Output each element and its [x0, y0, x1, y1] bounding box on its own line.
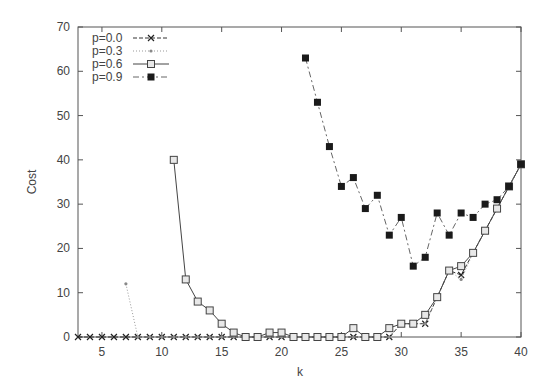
x-tick-label: 30 [395, 345, 409, 359]
open-square-marker-icon [170, 156, 177, 163]
legend-label: p=0.9 [92, 70, 123, 84]
x-tick-label: 20 [275, 345, 289, 359]
y-tick-label: 40 [57, 153, 71, 167]
open-square-marker-icon [386, 325, 393, 332]
filled-square-marker-icon [338, 183, 345, 190]
series-p-0-3 [124, 163, 522, 339]
cost-vs-k-chart: 510152025303540010203040506070 p=0.0p=0.… [0, 0, 556, 389]
star-marker-icon [352, 335, 355, 338]
y-tick-label: 0 [63, 330, 70, 344]
open-square-marker-icon [398, 320, 405, 327]
filled-square-marker-icon [148, 74, 155, 81]
open-square-marker-icon [410, 320, 417, 327]
filled-square-marker-icon [374, 192, 381, 199]
legend-item: p=0.6 [92, 57, 169, 71]
filled-square-marker-icon [398, 214, 405, 221]
series-line [174, 160, 521, 337]
series-line [78, 164, 521, 337]
filled-square-marker-icon [302, 55, 309, 62]
open-square-marker-icon [458, 263, 465, 270]
open-square-marker-icon [434, 294, 441, 301]
filled-square-marker-icon [506, 183, 513, 190]
series-line [126, 164, 521, 337]
data-series [75, 55, 525, 341]
series-p-0-0 [75, 161, 524, 340]
legend-item: p=0.9 [92, 70, 169, 84]
legend-item: p=0.0 [92, 31, 169, 45]
series-p-0-6 [170, 156, 524, 340]
open-square-marker-icon [482, 227, 489, 234]
star-marker-icon [148, 335, 151, 338]
series-line [305, 58, 521, 266]
open-square-marker-icon [362, 334, 369, 341]
open-square-marker-icon [254, 334, 261, 341]
plot-axes [78, 27, 521, 337]
x-tick-label: 5 [99, 345, 106, 359]
x-tick-label: 40 [514, 345, 528, 359]
star-marker-icon [172, 335, 175, 338]
star-marker-icon [388, 335, 391, 338]
x-marker-icon [458, 272, 464, 278]
star-marker-icon [220, 335, 223, 338]
filled-square-marker-icon [482, 201, 489, 208]
star-marker-icon [160, 335, 163, 338]
legend-item: p=0.3 [92, 44, 169, 58]
star-marker-icon [424, 322, 427, 325]
y-tick-label: 50 [57, 109, 71, 123]
open-square-marker-icon [470, 249, 477, 256]
star-marker-icon [184, 335, 187, 338]
y-axis-label: Cost [25, 169, 39, 194]
legend-label: p=0.6 [92, 57, 123, 71]
open-square-marker-icon [350, 325, 357, 332]
open-square-marker-icon [148, 61, 155, 68]
x-tick-label: 15 [215, 345, 229, 359]
open-square-marker-icon [338, 334, 345, 341]
x-tick-label: 35 [454, 345, 468, 359]
star-marker-icon [149, 49, 152, 52]
filled-square-marker-icon [386, 232, 393, 239]
open-square-marker-icon [218, 320, 225, 327]
y-tick-label: 30 [57, 197, 71, 211]
star-marker-icon [208, 335, 211, 338]
open-square-marker-icon [278, 329, 285, 336]
filled-square-marker-icon [434, 210, 441, 217]
open-square-marker-icon [206, 307, 213, 314]
filled-square-marker-icon [350, 174, 357, 181]
filled-square-marker-icon [458, 210, 465, 217]
series-p-0-9 [302, 55, 525, 270]
filled-square-marker-icon [470, 214, 477, 221]
open-square-marker-icon [242, 334, 249, 341]
open-square-marker-icon [266, 329, 273, 336]
star-marker-icon [124, 282, 127, 285]
x-tick-label: 10 [155, 345, 169, 359]
legend-label: p=0.0 [92, 31, 123, 45]
filled-square-marker-icon [410, 263, 417, 270]
filled-square-marker-icon [518, 161, 525, 168]
open-square-marker-icon [290, 334, 297, 341]
axis-ticks: 510152025303540010203040506070 [57, 20, 528, 359]
x-axis-label: k [297, 365, 304, 379]
open-square-marker-icon [374, 334, 381, 341]
x-tick-label: 25 [335, 345, 349, 359]
open-square-marker-icon [326, 334, 333, 341]
open-square-marker-icon [494, 205, 501, 212]
y-tick-label: 10 [57, 286, 71, 300]
y-tick-label: 20 [57, 241, 71, 255]
y-tick-label: 70 [57, 20, 71, 34]
y-tick-label: 60 [57, 64, 71, 78]
legend: p=0.0p=0.3p=0.6p=0.9 [92, 31, 169, 84]
open-square-marker-icon [230, 329, 237, 336]
open-square-marker-icon [194, 298, 201, 305]
open-square-marker-icon [302, 334, 309, 341]
filled-square-marker-icon [314, 99, 321, 106]
star-marker-icon [136, 335, 139, 338]
star-marker-icon [196, 335, 199, 338]
legend-label: p=0.3 [92, 44, 123, 58]
open-square-marker-icon [422, 311, 429, 318]
plot-frame [78, 27, 521, 337]
star-marker-icon [460, 278, 463, 281]
filled-square-marker-icon [422, 254, 429, 261]
open-square-marker-icon [446, 267, 453, 274]
filled-square-marker-icon [446, 232, 453, 239]
open-square-marker-icon [314, 334, 321, 341]
